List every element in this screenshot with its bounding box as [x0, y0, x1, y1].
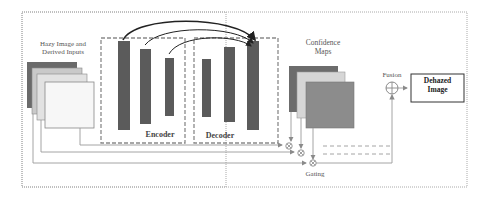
input-stack [27, 62, 94, 128]
confidence-maps [289, 66, 354, 128]
encoder-bar-2 [140, 49, 151, 124]
decoder-bar-2 [224, 47, 235, 122]
gating-label: Gating [295, 170, 335, 178]
decoder-label: Decoder [200, 131, 240, 140]
diagram-canvas [0, 0, 488, 197]
decoder-bar-3 [247, 41, 259, 130]
skip-connection-1 [123, 21, 255, 40]
gating-node-3 [310, 160, 316, 166]
fusion-label: Fusion [375, 71, 409, 79]
confidence-maps-label: Confidence Maps [293, 39, 353, 56]
encoder-bar-1 [118, 41, 130, 130]
encoder-bar-3 [165, 58, 174, 116]
inputs-label: Hazy Image and Derived Inputs [28, 40, 98, 56]
gating-node-2 [298, 150, 304, 156]
encoder-label: Encoder [135, 130, 185, 139]
gating-node-1 [286, 143, 292, 149]
dehazed-image-label: Dehazed Image [411, 77, 464, 94]
skip-connection-3 [169, 38, 251, 54]
fusion-node [386, 82, 398, 94]
decoder-bar-1 [202, 59, 211, 117]
